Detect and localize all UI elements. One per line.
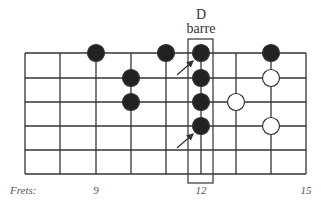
chord-name-label: D [186,8,216,22]
filled-note-dot [263,45,280,62]
fret-number: 15 [296,184,316,196]
filled-note-dot [158,45,175,62]
open-note-dot [263,118,280,135]
chord-type-label: barre [176,22,226,36]
filled-note-dot [123,94,140,111]
filled-note-dot [193,70,210,87]
open-note-dot [263,70,280,87]
fretboard-svg [0,0,321,203]
fretboard-diagram: D barre Frets: 91215 [0,0,321,203]
fret-number: 9 [86,184,106,196]
frets-label: Frets: [10,184,36,196]
open-note-dot [228,94,245,111]
arrow-icon [177,61,193,75]
filled-note-dot [88,45,105,62]
filled-note-dot [123,70,140,87]
filled-note-dot [193,45,210,62]
arrow-icon [177,134,193,148]
fret-number: 12 [191,184,211,196]
filled-note-dot [193,94,210,111]
filled-note-dot [193,118,210,135]
